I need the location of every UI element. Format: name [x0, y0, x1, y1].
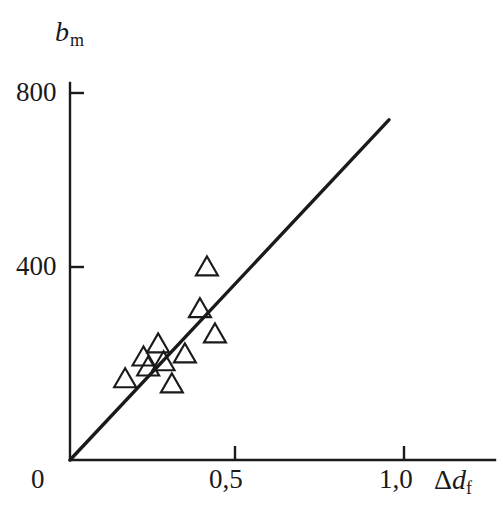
data-point-triangle [114, 368, 136, 387]
x-axis-label-subscript: f [466, 478, 472, 498]
axes-group [70, 83, 495, 460]
x-tick-label-05: 0,5 [209, 466, 243, 493]
y-axis-label-symbol: b [55, 16, 69, 47]
data-point-triangle [147, 333, 169, 352]
x-tick-label-10: 1,0 [379, 466, 413, 493]
scatter-plot-figure: bm Δdf 800 400 0 0,5 1,0 [0, 0, 503, 520]
x-tick-label-0: 0 [31, 466, 45, 493]
plot-canvas [0, 0, 503, 520]
data-point-triangle [204, 323, 226, 342]
y-axis-label-subscript: m [70, 30, 84, 50]
y-tick-label-800: 800 [16, 79, 57, 106]
x-axis-label-symbol: d [452, 464, 466, 495]
data-point-triangle [196, 256, 218, 275]
y-axis-label: bm [55, 18, 83, 46]
y-tick-label-400: 400 [16, 253, 57, 280]
x-axis-label: Δdf [434, 466, 472, 494]
data-series-group [70, 120, 389, 460]
data-point-markers [114, 256, 226, 392]
regression-line [70, 120, 389, 460]
data-point-triangle [161, 373, 183, 392]
x-axis-label-prefix: Δ [434, 464, 452, 495]
